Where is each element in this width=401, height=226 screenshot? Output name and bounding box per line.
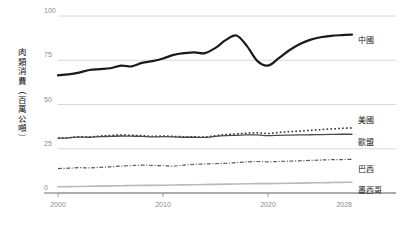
series-labels: 中國美國歐盟巴西墨西哥 [358,35,382,196]
y-axis-title: 肉類消費（百萬公噸） [10,48,32,178]
y-tick-label: 75 [44,51,52,58]
x-tick-label: 2020 [260,201,276,208]
series-line-3 [58,159,352,168]
x-tick-label: 2010 [155,201,171,208]
series-line-0 [58,35,352,76]
y-tick-label: 0 [44,184,48,191]
y-tick-label: 25 [44,140,52,147]
series-label-0: 中國 [358,35,374,45]
meat-consumption-line-chart: 肉類消費（百萬公噸） 0255075100 2000201020202028 中… [0,0,401,226]
x-tick-label: 2000 [50,201,66,208]
series-label-2: 歐盟 [358,137,374,147]
y-tick-label: 50 [44,96,52,103]
series-label-4: 墨西哥 [358,186,382,195]
x-axis [44,193,396,197]
series-paths [58,35,352,187]
series-line-2 [58,134,352,138]
x-tick-labels: 2000201020202028 [50,201,352,208]
y-tick-labels: 0255075100 [44,7,56,191]
x-tick-label: 2028 [336,201,352,208]
y-tick-label: 100 [44,7,56,14]
plot-area: 0255075100 2000201020202028 中國美國歐盟巴西墨西哥 [0,0,401,226]
series-label-1: 美國 [358,115,374,125]
series-label-3: 巴西 [358,165,374,174]
series-line-4 [58,182,352,187]
y-axis-title-label: 肉類消費（百萬公噸） [17,48,26,143]
